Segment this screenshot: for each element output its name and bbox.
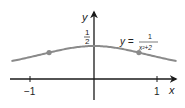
x-axis-label: x	[168, 84, 175, 96]
y-tick-label-denominator: 2	[85, 37, 90, 46]
function-label-numerator: 1	[148, 33, 152, 40]
function-label-denominator: x²+2	[138, 44, 152, 51]
x-tick-label-neg1: −1	[24, 86, 36, 97]
function-graph: y x −1 1 1 2 y = 1 x²+2	[0, 0, 185, 108]
marked-point-left	[47, 50, 52, 55]
y-tick-label-numerator: 1	[85, 28, 90, 37]
y-axis-label: y	[81, 11, 89, 23]
function-label-lhs: y =	[119, 36, 134, 47]
x-tick-label-1: 1	[154, 86, 160, 97]
